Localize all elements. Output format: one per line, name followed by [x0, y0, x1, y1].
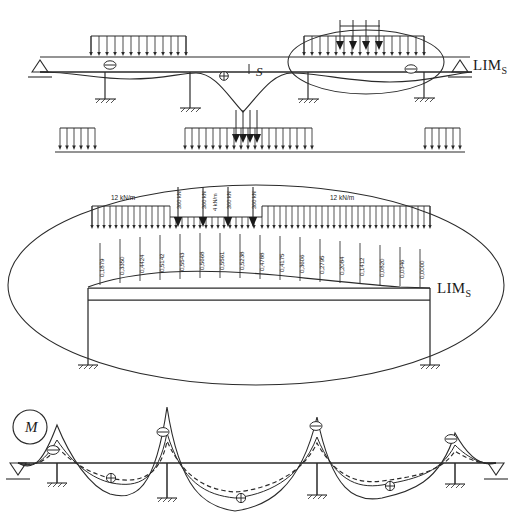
panel-load-arrangement-detail: 12 kN/m 12 kN/m 4 kN/m 360 kN 360 kN 360… [0, 175, 513, 395]
udl-left-detail [92, 206, 170, 227]
ordinate-label-4: 0,5142 [158, 254, 165, 272]
sign-negative-left [104, 61, 116, 69]
point-load-label-4: 360 kN [251, 191, 257, 209]
support-fixed-4 [414, 72, 435, 102]
ordinate-label-12: 0,2795 [318, 256, 325, 274]
panel-influence-line: S LIMS [0, 0, 513, 175]
udl-right-detail [262, 206, 430, 227]
moment-label-M: M [25, 419, 38, 436]
moment-columns [57, 463, 455, 498]
influence-beam-group [28, 20, 472, 152]
ordinate-label-6: 0,5668 [198, 252, 205, 270]
moment-envelope-outer [18, 407, 496, 511]
ordinate-label-10: 0,4175 [278, 254, 285, 272]
ordinate-label-2: 0,3350 [118, 257, 125, 275]
moment-sign-positive-2 [236, 493, 245, 502]
moment-sign-positive-1 [106, 473, 115, 482]
moment-envelope-inner [18, 433, 496, 498]
ordinate-label-11: 0,3606 [298, 255, 305, 273]
portal-frame [88, 288, 430, 365]
point-load-label-2: 360 kN [201, 191, 207, 209]
ordinate-label-16: 0,0346 [398, 260, 405, 278]
moment-sign-negative-4 [445, 435, 457, 444]
ordinate-label-9: 0,4788 [258, 253, 265, 271]
ordinate-label-13: 0,2084 [338, 257, 345, 275]
ordinate-label-8: 0,5238 [238, 252, 245, 270]
support-pin-left [28, 60, 52, 77]
ordinate-label-5: 0,5543 [178, 253, 185, 271]
point-load-label-3: 360 kN [226, 191, 232, 209]
sign-positive-mid [220, 72, 229, 81]
udl-middle-detail [170, 217, 262, 225]
udl-left-block [89, 36, 188, 56]
support-fixed-2 [180, 72, 201, 112]
lower-udl-left [58, 128, 97, 150]
moment-base-fixed-4 [445, 484, 465, 488]
axle-loads-midspan [232, 110, 261, 143]
udl-middle-label: 4 kN/m [212, 193, 218, 211]
lower-udl-right [423, 128, 462, 150]
moment-sign-negative-2 [157, 428, 169, 437]
frame-support-left [78, 365, 98, 369]
moment-base-fixed-3 [307, 495, 327, 499]
moment-base-fixed-1 [47, 483, 67, 487]
moment-base-fixed-2 [157, 498, 177, 502]
sign-negative-right [405, 65, 417, 73]
moment-support-right [484, 463, 508, 479]
ordinate-label-15: 0,0820 [378, 259, 385, 277]
panel-bending-moment: M [0, 395, 513, 518]
moment-sign-negative-3 [310, 422, 322, 431]
ordinate-label-3: 0,4424 [138, 255, 145, 273]
frame-support-right [420, 365, 440, 369]
moment-sign-positive-3 [385, 481, 394, 490]
lim-label-panel1: LIMS [473, 57, 507, 76]
ordinate-label-17: 0,0000 [418, 261, 425, 279]
support-fixed-3 [298, 72, 319, 103]
ordinate-label-14: 0,1412 [358, 258, 365, 276]
point-load-label-1: 360 kN [176, 191, 182, 209]
moment-dashed-line [18, 441, 496, 492]
ordinate-label-7: 0,5561 [218, 252, 225, 270]
moment-sign-negative-1 [47, 446, 59, 455]
udl-left-label: 12 kN/m [111, 194, 135, 201]
section-label-S: S [256, 64, 263, 80]
udl-arrowheads-detail [90, 225, 431, 229]
lim-label-panel2: LIMS [437, 280, 471, 299]
udl-right-block [302, 36, 426, 56]
udl-right-label: 12 kN/m [330, 194, 354, 201]
ordinate-label-1: 0,1879 [98, 259, 105, 277]
